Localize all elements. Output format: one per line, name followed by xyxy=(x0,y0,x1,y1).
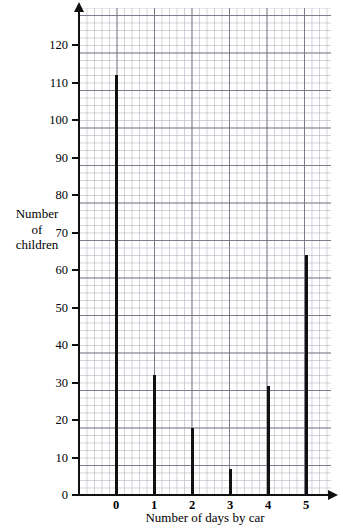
bar xyxy=(115,75,118,495)
y-axis-tick-label: 110 xyxy=(28,77,68,90)
bar xyxy=(305,255,308,495)
y-axis-tick-label: 100 xyxy=(28,114,68,127)
y-axis-tick xyxy=(72,119,79,121)
y-axis-tick xyxy=(72,344,79,346)
y-axis-tick xyxy=(72,494,79,496)
y-axis-tick xyxy=(72,419,79,421)
y-axis-title-line-3: children xyxy=(4,237,70,253)
y-axis-tick-label: 90 xyxy=(28,152,68,165)
y-axis-tick-label: 120 xyxy=(28,39,68,52)
vertical-line-chart: 0102030405060708090100110120 012345 Numb… xyxy=(0,0,343,529)
y-axis-tick xyxy=(72,157,79,159)
y-axis-tick-label: 80 xyxy=(28,189,68,202)
bar xyxy=(153,375,156,495)
y-axis-tick xyxy=(72,457,79,459)
y-axis-arrow-icon xyxy=(74,2,84,12)
y-axis-tick xyxy=(72,82,79,84)
y-axis-tick xyxy=(72,194,79,196)
bar xyxy=(229,469,232,495)
x-axis-title: Number of days by car xyxy=(79,511,331,525)
y-axis-tick xyxy=(72,307,79,309)
y-axis-tick-label: 20 xyxy=(28,414,68,427)
y-axis-title-line-1: Number xyxy=(4,206,70,222)
y-axis-tick-label: 50 xyxy=(28,302,68,315)
y-axis-title-line-2: of xyxy=(4,222,70,238)
y-axis-tick xyxy=(72,269,79,271)
y-axis-tick-label: 30 xyxy=(28,377,68,390)
y-axis-tick-label: 0 xyxy=(28,489,68,502)
y-axis-tick-label: 40 xyxy=(28,339,68,352)
y-axis-tick xyxy=(72,232,79,234)
y-axis-tick-label: 60 xyxy=(28,264,68,277)
y-axis-title: Number of children xyxy=(4,206,70,253)
x-axis-arrow-icon xyxy=(328,490,338,500)
y-axis-tick-label: 10 xyxy=(28,452,68,465)
y-axis-tick xyxy=(72,382,79,384)
y-axis-tick xyxy=(72,44,79,46)
bar xyxy=(267,386,270,495)
bar xyxy=(191,428,194,496)
